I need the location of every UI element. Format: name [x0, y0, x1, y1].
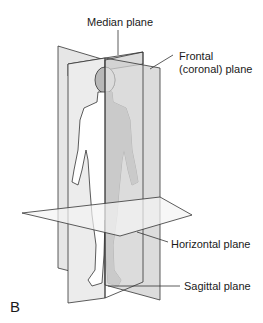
- median-plane-label: Median plane: [87, 16, 153, 28]
- frontal-plane-right: [105, 58, 160, 300]
- frontal-leader: [150, 55, 173, 69]
- frontal-plane-label-line2: (coronal) plane: [179, 63, 252, 75]
- horizontal-plane: [22, 197, 192, 236]
- sagittal-plane-label: Sagittal plane: [184, 280, 251, 292]
- anatomical-planes-diagram: [0, 0, 263, 323]
- frontal-plane-label-line1: Frontal: [179, 50, 213, 62]
- horizontal-plane-label: Horizontal plane: [171, 238, 251, 250]
- figure-label: B: [10, 298, 20, 315]
